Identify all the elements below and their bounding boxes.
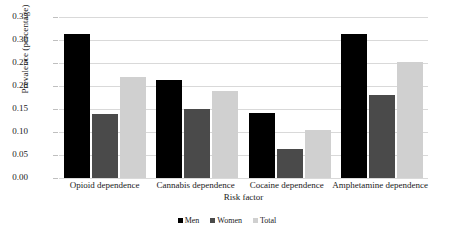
x-axis-tick-label: Cannabis dependence (150, 180, 241, 190)
y-axis-tick-mark (53, 155, 58, 156)
legend-label: Women (217, 216, 242, 225)
bar (212, 91, 238, 178)
bar (277, 149, 303, 178)
y-axis-tick-mark (53, 40, 58, 41)
bar (120, 77, 146, 178)
y-axis-tick-mark (53, 109, 58, 110)
legend-item[interactable]: Total (253, 216, 276, 225)
y-axis-tick-label: 0.00 (0, 172, 28, 182)
bar-chart: Prevalence (percentage) 0.000.050.100.15… (0, 0, 454, 233)
y-axis-tick-label: 0.05 (0, 149, 28, 159)
bar (92, 114, 118, 178)
bar-group (244, 17, 336, 178)
bar (305, 130, 331, 178)
y-axis-tick-mark (53, 63, 58, 64)
legend-swatch-icon (253, 218, 258, 223)
bar-groups (59, 17, 428, 178)
bar-group (59, 17, 151, 178)
bar (184, 109, 210, 178)
y-axis-tick-mark (53, 17, 58, 18)
legend-item[interactable]: Men (178, 216, 200, 225)
y-axis-tick-mark (53, 132, 58, 133)
bar (64, 34, 90, 178)
x-axis-tick-labels: Opioid dependenceCannabis dependenceCoca… (59, 180, 428, 190)
y-axis-tick-label: 0.15 (0, 103, 28, 113)
bar (156, 80, 182, 178)
gridline (59, 178, 428, 179)
legend-swatch-icon (178, 218, 183, 223)
bar (341, 34, 367, 178)
bar (369, 95, 395, 178)
bar (249, 113, 275, 178)
bar-group (336, 17, 428, 178)
y-axis-tick-label: 0.35 (0, 11, 28, 21)
x-axis-tick-label: Amphetamine dependence (332, 180, 428, 190)
x-axis-tick-label: Opioid dependence (59, 180, 150, 190)
y-axis-tick-mark (53, 178, 58, 179)
x-axis-title: Risk factor (59, 192, 428, 202)
plot-area: 0.000.050.100.150.200.250.300.35 (59, 17, 428, 178)
legend-label: Total (260, 216, 276, 225)
y-axis-tick-label: 0.25 (0, 57, 28, 67)
bar (397, 62, 423, 178)
y-axis-tick-label: 0.10 (0, 126, 28, 136)
legend-label: Men (185, 216, 200, 225)
legend-swatch-icon (210, 218, 215, 223)
x-axis-tick-label: Cocaine dependence (241, 180, 332, 190)
chart-legend: MenWomenTotal (0, 216, 454, 225)
legend-item[interactable]: Women (210, 216, 242, 225)
bar-group (151, 17, 243, 178)
y-axis-tick-mark (53, 86, 58, 87)
y-axis-tick-label: 0.30 (0, 34, 28, 44)
y-axis-tick-label: 0.20 (0, 80, 28, 90)
